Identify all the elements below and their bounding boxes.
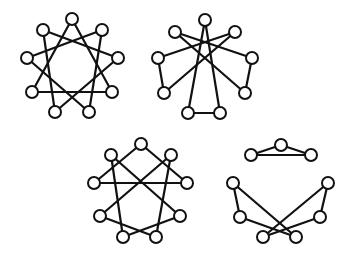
node-bottom-left [49, 106, 61, 118]
node-top [135, 138, 147, 150]
node-bottom-right [290, 231, 302, 243]
node-bottom-left [182, 107, 194, 119]
graph-diagram [0, 0, 350, 261]
node-lower-right [106, 86, 118, 98]
node-top [66, 13, 78, 25]
node-upper-left [37, 24, 49, 36]
node-upper-left [105, 149, 117, 161]
node-upper-right [165, 149, 177, 161]
node-left [227, 177, 239, 189]
node-lower-right [239, 87, 251, 99]
node-top [199, 14, 211, 26]
edge-top-bottom-right [205, 20, 220, 113]
node-lower-left [94, 210, 106, 222]
node-bottom-left [257, 231, 269, 243]
node-upper-right [229, 26, 241, 38]
node-right [322, 177, 334, 189]
node-bottom-right [150, 231, 162, 243]
node-right [246, 52, 258, 64]
node-lower-right [314, 211, 326, 223]
graph-3 [88, 138, 193, 243]
graph-4 [227, 139, 334, 243]
edge-top-right [141, 144, 187, 183]
edge-top-left [94, 144, 141, 183]
diagram-canvas [0, 0, 350, 261]
node-upper-left [169, 26, 181, 38]
graph-2 [152, 14, 258, 119]
node-right [112, 52, 124, 64]
node-upper-right [305, 149, 317, 161]
node-lower-right [174, 210, 186, 222]
node-upper-left [245, 149, 257, 161]
node-bottom-right [214, 107, 226, 119]
node-lower-left [26, 86, 38, 98]
node-lower-left [234, 211, 246, 223]
edge-upper-right-lower-left [100, 155, 171, 216]
node-lower-left [158, 87, 170, 99]
node-upper-right [96, 24, 108, 36]
node-bottom-left [117, 231, 129, 243]
node-bottom-right [83, 106, 95, 118]
node-left [152, 52, 164, 64]
node-left [21, 52, 33, 64]
node-top [275, 139, 287, 151]
node-left [88, 177, 100, 189]
graph-1 [21, 13, 124, 118]
node-right [181, 177, 193, 189]
edge-bottom-left-upper-left [43, 30, 55, 112]
